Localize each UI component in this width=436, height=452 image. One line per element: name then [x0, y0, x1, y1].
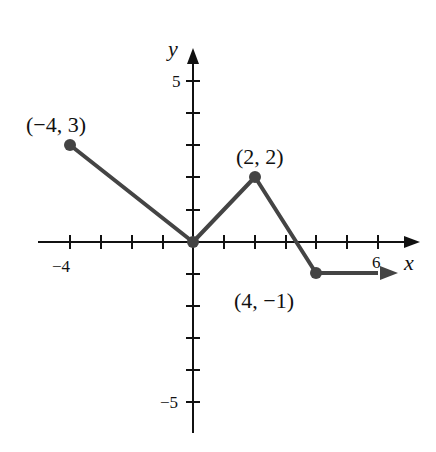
point-label-2-2: (2, 2) — [236, 144, 284, 169]
point-4-neg1 — [310, 267, 322, 279]
x-tick-neg4: −4 — [52, 257, 71, 276]
point-label-neg4-3: (−4, 3) — [26, 112, 86, 137]
piecewise-graph — [64, 139, 398, 280]
x-axis-label: x — [403, 250, 414, 275]
y-tick-neg5: −5 — [160, 393, 178, 412]
chart-canvas: y x 5 −5 −4 6 (−4, 3) (2, 2) (4, −1) — [0, 0, 436, 452]
point-label-4-neg1: (4, −1) — [234, 288, 294, 313]
point-neg4-3 — [64, 139, 76, 151]
arrow-right-icon — [380, 266, 398, 280]
y-tick-5: 5 — [172, 72, 181, 91]
x-tick-6: 6 — [372, 253, 381, 272]
point-2-2 — [249, 171, 261, 183]
x-axis — [38, 235, 420, 249]
y-axis-label: y — [166, 36, 178, 61]
point-origin — [187, 236, 199, 248]
